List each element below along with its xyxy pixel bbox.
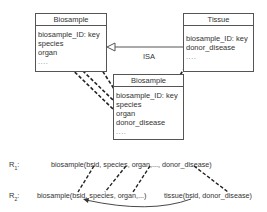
rule-r2-tissue-atom: tissue(bsid, donor_disease) — [164, 191, 252, 200]
entity-biosample-source: Biosample biosample_ID: key species orga… — [35, 13, 107, 72]
entity-attributes: biosample_ID: key species organ .... — [36, 26, 106, 66]
attribute-ellipsis: .... — [186, 52, 253, 61]
rule-r1-label: R1: — [9, 160, 19, 171]
entity-tissue: Tissue biosample_ID: key donor_disease .… — [183, 13, 254, 72]
rule-r2-label: R2: — [9, 191, 19, 202]
rule-r2-biosample-atom: biosample(bsid, species, organ,...) — [37, 191, 146, 200]
attribute-ellipsis: .... — [38, 57, 106, 66]
isa-label: ISA — [143, 52, 155, 61]
attribute-biosample-id: biosample_ID: key — [116, 91, 183, 100]
attribute-donor-disease: donor_disease — [186, 43, 253, 52]
rule-r1-colon: : — [17, 160, 19, 169]
rule-line-donor — [194, 166, 228, 192]
isa-arrowhead-icon — [107, 43, 115, 51]
entity-biosample-target: Biosample biosample_ID: key species orga… — [113, 74, 184, 140]
attribute-biosample-id: biosample_ID: key — [186, 34, 253, 43]
attribute-donor-disease: donor_disease — [116, 118, 183, 127]
rule-line-organ — [133, 166, 150, 192]
rule-line-species — [105, 166, 126, 192]
attribute-biosample-id: biosample_ID: key — [38, 30, 106, 39]
attribute-species: species — [116, 100, 183, 109]
entity-attributes: biosample_ID: key donor_disease .... — [184, 26, 253, 61]
join-curve — [86, 199, 191, 207]
attribute-ellipsis: .... — [116, 127, 183, 136]
entity-attributes: biosample_ID: key species organ donor_di… — [114, 87, 183, 136]
attribute-species: species — [38, 39, 106, 48]
rule-r2-colon: : — [17, 191, 19, 200]
attribute-organ: organ — [38, 48, 106, 57]
entity-title: Biosample — [36, 14, 106, 26]
attribute-organ: organ — [116, 109, 183, 118]
rule-r1-text: biosample(bsid, species, organ,..., dono… — [51, 160, 212, 169]
entity-title: Biosample — [114, 75, 183, 87]
entity-title: Tissue — [184, 14, 253, 26]
rule-line-bsid — [78, 166, 94, 192]
